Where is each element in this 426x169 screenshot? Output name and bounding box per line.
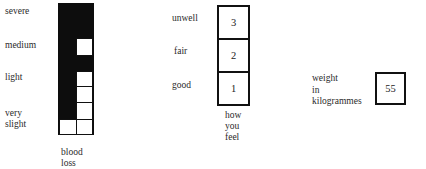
feel-cell-2: 2 xyxy=(217,38,250,73)
level-severe-label: severe xyxy=(5,6,29,17)
level-medium-label: medium xyxy=(5,40,36,51)
blood-loss-caption-line1: blood xyxy=(61,147,83,158)
feel-caption-line3: feel xyxy=(225,132,239,143)
blood-loss-cell-light-1 xyxy=(76,71,93,87)
feel-value-2: 2 xyxy=(231,50,236,61)
weight-value: 55 xyxy=(385,83,396,94)
feel-cell-1: 1 xyxy=(217,71,250,106)
blood-loss-cell-medium xyxy=(76,38,93,56)
weight-label-line3: kilogrammes xyxy=(312,96,362,107)
feel-label-good: good xyxy=(172,80,191,91)
weight-label-line1: weight xyxy=(312,73,338,84)
level-very-slight-label-line1: very xyxy=(5,108,22,119)
level-very-slight-label-line2: slight xyxy=(5,119,26,130)
blood-loss-cell-light-2 xyxy=(76,86,93,103)
level-light-label: light xyxy=(5,72,22,83)
blood-loss-caption-line2: loss xyxy=(61,158,76,169)
weight-value-box: 55 xyxy=(375,72,406,105)
blood-loss-cell-light-3 xyxy=(76,102,93,120)
weight-label-line2: in xyxy=(312,85,319,96)
feel-caption-line2: you xyxy=(225,121,239,132)
feel-value-3: 3 xyxy=(231,17,236,28)
blood-loss-cell-very-slight-right xyxy=(76,119,93,135)
feel-label-unwell: unwell xyxy=(172,13,198,24)
feel-caption-line1: how xyxy=(225,110,241,121)
feel-label-fair: fair xyxy=(174,46,187,57)
feel-value-1: 1 xyxy=(231,83,236,94)
feel-cell-3: 3 xyxy=(217,5,250,40)
blood-loss-cell-very-slight-left xyxy=(59,119,77,135)
